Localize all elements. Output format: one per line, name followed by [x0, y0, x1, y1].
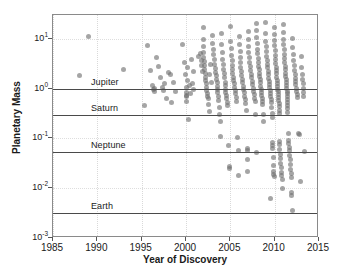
data-point	[237, 42, 242, 47]
data-point	[289, 175, 294, 180]
data-point	[237, 34, 242, 39]
data-point	[169, 100, 174, 105]
plot-frame: JupiterSaturnNeptuneEarth	[52, 14, 318, 237]
data-point	[286, 131, 291, 136]
data-point	[300, 72, 305, 77]
y-tick-label: 100	[14, 83, 48, 93]
reference-line-earth	[53, 213, 317, 214]
y-tick-label: 101	[14, 33, 48, 43]
data-point	[201, 44, 206, 49]
data-point	[246, 29, 251, 34]
data-point	[210, 41, 215, 46]
data-point	[186, 117, 191, 122]
gridline-vertical	[53, 15, 55, 236]
data-point	[228, 39, 233, 44]
chart-root: Planetary Mass 10110010-110-210-3 Jupite…	[0, 0, 347, 275]
data-point	[154, 55, 159, 60]
reference-label-saturn: Saturn	[91, 103, 118, 113]
data-point	[229, 46, 234, 51]
x-tick-mark	[274, 237, 275, 241]
data-point	[168, 72, 173, 77]
data-point	[220, 57, 225, 62]
x-tick-mark	[96, 237, 97, 241]
data-point	[272, 174, 277, 179]
data-point	[228, 24, 233, 29]
data-point	[260, 102, 265, 107]
data-point	[218, 119, 223, 124]
data-point	[152, 89, 157, 94]
reference-label-jupiter: Jupiter	[91, 77, 119, 87]
data-point	[261, 119, 266, 124]
data-point	[226, 143, 231, 148]
x-axis-title: Year of Discovery	[52, 254, 318, 265]
x-tick-mark	[229, 237, 230, 241]
data-point	[229, 53, 234, 58]
data-point	[269, 105, 274, 110]
y-tick-label: 10-2	[14, 182, 48, 192]
data-point	[291, 52, 296, 57]
data-point	[281, 30, 286, 35]
data-point	[217, 105, 222, 110]
data-point	[244, 108, 249, 113]
data-point	[191, 69, 196, 74]
x-tick-label: 1995	[130, 242, 152, 253]
data-point	[280, 186, 285, 191]
data-point	[235, 135, 240, 140]
data-point	[263, 20, 268, 25]
data-point	[219, 31, 224, 36]
data-point	[216, 98, 221, 103]
data-point	[219, 42, 224, 47]
x-tick-label: 2000	[174, 242, 196, 253]
data-point	[254, 21, 259, 26]
data-point	[142, 103, 147, 108]
data-point	[227, 166, 232, 171]
data-point	[145, 43, 150, 48]
data-point	[245, 169, 250, 174]
data-point	[190, 81, 195, 86]
data-point	[255, 41, 260, 46]
data-point	[281, 22, 286, 27]
data-point	[188, 91, 193, 96]
gridline-horizontal	[53, 188, 317, 190]
data-point	[238, 49, 243, 54]
data-point	[295, 95, 300, 100]
data-point	[183, 72, 188, 77]
data-point	[236, 173, 241, 178]
data-point	[201, 37, 206, 42]
data-point	[173, 89, 178, 94]
data-point	[254, 28, 259, 33]
data-point	[171, 80, 176, 85]
gridline-vertical	[186, 15, 188, 236]
x-tick-label: 1985	[41, 242, 63, 253]
data-point	[246, 37, 251, 42]
data-point	[290, 36, 295, 41]
reference-line-neptune	[53, 152, 317, 153]
data-point	[121, 67, 126, 72]
data-point	[263, 31, 268, 36]
data-point	[246, 44, 251, 49]
x-tick-mark	[141, 237, 142, 241]
y-tick-label: 10-1	[14, 132, 48, 142]
data-point	[278, 156, 283, 161]
data-point	[162, 81, 167, 86]
data-point	[148, 68, 153, 73]
data-point	[156, 64, 161, 69]
x-tick-label: 2010	[263, 242, 285, 253]
data-point	[299, 54, 304, 59]
y-axis-title: Planetary Mass	[11, 58, 22, 178]
reference-label-neptune: Neptune	[91, 140, 126, 150]
data-point	[210, 33, 215, 38]
data-point	[290, 45, 295, 50]
y-tick-label: 10-3	[14, 232, 48, 242]
data-point	[201, 25, 206, 30]
x-tick-label: 2015	[307, 242, 329, 253]
plot-area: JupiterSaturnNeptuneEarth	[53, 15, 317, 236]
data-point	[185, 65, 190, 70]
data-point	[207, 109, 212, 114]
data-point	[158, 75, 163, 80]
data-point	[298, 179, 303, 184]
data-point	[243, 101, 248, 106]
data-point	[184, 99, 189, 104]
data-point	[164, 96, 169, 101]
data-point	[180, 42, 185, 47]
